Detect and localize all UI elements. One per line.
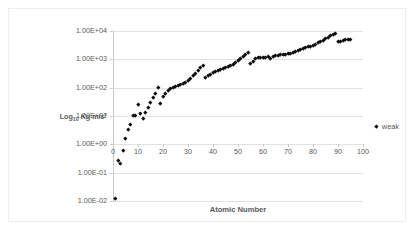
data-point <box>129 122 133 126</box>
data-point <box>119 162 123 166</box>
x-axis-tick-label: 20 <box>159 148 167 155</box>
y-axis-tick <box>110 201 113 202</box>
gridline <box>113 116 363 117</box>
plot-area: 1.00E+041.00E+031.00E+021.00E+011.00E+00… <box>113 31 363 201</box>
gridline <box>113 201 363 202</box>
x-axis-tick-label: 60 <box>259 148 267 155</box>
x-axis-tick-label: 70 <box>284 148 292 155</box>
data-point <box>189 76 193 80</box>
y-axis-tick <box>110 116 113 117</box>
data-point <box>334 32 338 36</box>
x-axis-tick-label: 40 <box>209 148 217 155</box>
y-axis-tick-label: 1.00E+03 <box>76 56 107 63</box>
y-axis-tick-label: 1.00E-01 <box>78 169 107 176</box>
gridline <box>113 173 363 174</box>
data-point <box>136 103 140 107</box>
data-point <box>161 95 165 99</box>
y-axis-tick <box>110 88 113 89</box>
gridline <box>113 88 363 89</box>
y-axis-tick <box>110 59 113 60</box>
x-axis-title: Atomic Number <box>113 205 363 214</box>
legend[interactable]: weak <box>375 122 399 131</box>
x-axis-tick-label: 90 <box>334 148 342 155</box>
y-axis-tick-label: 1.00E+02 <box>76 84 107 91</box>
data-point <box>121 148 125 152</box>
data-point <box>141 117 145 121</box>
y-axis-title-main: Log <box>60 112 73 121</box>
data-point <box>124 137 128 141</box>
data-point <box>146 106 150 110</box>
data-point <box>151 96 155 100</box>
x-axis-tick-label: 30 <box>184 148 192 155</box>
x-axis-tick-label: 50 <box>234 148 242 155</box>
legend-marker-icon <box>374 125 378 129</box>
data-point <box>154 92 158 96</box>
y-axis-tick-label: 1.00E+01 <box>76 112 107 119</box>
y-axis-tick-label: 1.00E-02 <box>78 197 107 204</box>
data-point <box>144 110 148 114</box>
legend-label-weak: weak <box>382 122 399 131</box>
data-point <box>149 101 153 105</box>
gridline <box>113 31 363 32</box>
data-point <box>349 37 353 41</box>
chart-frame: Log10 Kg m/s² 1.00E+041.00E+031.00E+021.… <box>8 8 406 222</box>
data-point <box>126 127 130 131</box>
data-point <box>194 71 198 75</box>
data-point <box>159 101 163 105</box>
x-axis-tick-label: 0 <box>111 148 115 155</box>
y-axis-tick <box>110 173 113 174</box>
y-axis-tick-label: 1.00E+00 <box>76 141 107 148</box>
x-axis-tick-label: 100 <box>357 148 369 155</box>
x-axis-tick-label: 80 <box>309 148 317 155</box>
y-axis-tick-label: 1.00E+04 <box>76 27 107 34</box>
data-point <box>164 92 168 96</box>
y-axis-tick <box>110 31 113 32</box>
x-axis-tick-label: 10 <box>134 148 142 155</box>
